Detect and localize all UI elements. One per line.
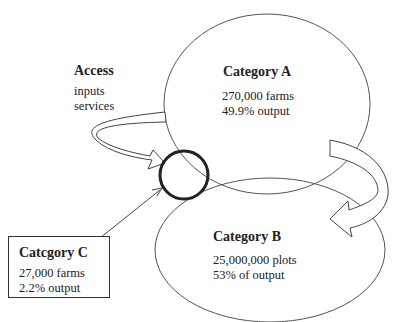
access-line-services: services bbox=[74, 100, 114, 112]
overlap-highlight-circle bbox=[160, 151, 208, 199]
category-b-title: Category B bbox=[213, 229, 281, 244]
category-b-output: 53% of output bbox=[213, 269, 285, 283]
category-a-title: Category A bbox=[223, 64, 291, 79]
category-a-farms: 270,000 farms bbox=[222, 90, 294, 104]
category-c-pointer-line bbox=[100, 190, 160, 238]
category-c-box: Catcgory C 27,000 farms 2.2% output bbox=[8, 236, 110, 298]
left-curved-arrow bbox=[92, 112, 166, 169]
category-c-output: 2.2% output bbox=[19, 282, 80, 296]
right-curved-arrow bbox=[330, 140, 388, 237]
access-line-inputs: inputs bbox=[74, 85, 105, 99]
category-c-farms: 27,000 farms bbox=[19, 267, 85, 281]
access-title: Access bbox=[74, 63, 114, 78]
category-b-plots: 25,000,000 plots bbox=[213, 254, 297, 268]
category-c-title: Catcgory C bbox=[19, 245, 88, 260]
category-a-output: 49.9% output bbox=[222, 105, 289, 119]
